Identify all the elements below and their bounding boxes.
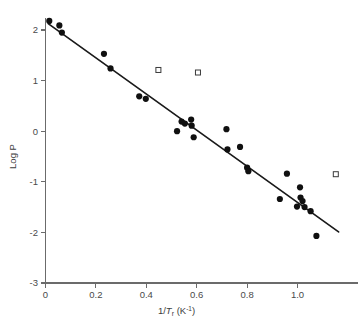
data-point-0-0	[46, 18, 52, 24]
x-tick-label-5: 1.0	[291, 289, 304, 300]
data-point-0-6	[143, 96, 149, 102]
data-point-0-10	[188, 116, 194, 122]
data-point-0-17	[245, 168, 251, 174]
data-point-0-13	[223, 126, 229, 132]
data-point-1-2	[333, 172, 338, 177]
data-point-0-11	[189, 123, 195, 129]
y-tick-label-2: 0	[33, 126, 38, 137]
y-tick-label-4: -2	[30, 227, 38, 238]
data-point-0-15	[237, 144, 243, 150]
x-tick-label-1: 0.2	[89, 289, 102, 300]
y-axis-title-text: Log P	[7, 144, 18, 169]
scatter-plot-svg: 210-1-2-300.20.40.60.81.0Log P1/Tr (K-1)	[0, 0, 358, 329]
data-point-0-23	[299, 198, 305, 204]
chart-container: 210-1-2-300.20.40.60.81.0Log P1/Tr (K-1)…	[0, 0, 358, 329]
x-tick-label-3: 0.6	[190, 289, 203, 300]
data-point-0-20	[294, 203, 300, 209]
data-point-0-2	[59, 29, 65, 35]
x-tick-label-0: 0	[43, 289, 48, 300]
data-point-0-1	[56, 22, 62, 28]
data-point-0-12	[191, 134, 197, 140]
data-point-0-25	[308, 208, 314, 214]
data-point-0-24	[301, 204, 307, 210]
y-tick-label-3: -1	[30, 176, 38, 187]
data-point-1-0	[156, 67, 161, 72]
data-point-0-7	[174, 128, 180, 134]
data-point-0-26	[313, 233, 319, 239]
data-point-0-3	[101, 51, 107, 57]
x-tick-label-4: 0.8	[240, 289, 253, 300]
data-point-0-5	[136, 93, 142, 99]
data-point-0-14	[224, 146, 230, 152]
data-point-0-18	[277, 196, 283, 202]
data-point-1-1	[195, 70, 200, 75]
data-point-0-9	[182, 121, 188, 127]
data-point-0-21	[297, 184, 303, 190]
y-tick-label-5: -3	[30, 277, 38, 288]
y-tick-label-1: 1	[33, 75, 38, 86]
x-axis-title-text: 1/Tr (K-1)	[158, 305, 195, 317]
x-tick-label-2: 0.4	[140, 289, 153, 300]
y-tick-label-0: 2	[33, 24, 38, 35]
data-point-0-4	[107, 65, 113, 71]
data-point-0-19	[284, 171, 290, 177]
